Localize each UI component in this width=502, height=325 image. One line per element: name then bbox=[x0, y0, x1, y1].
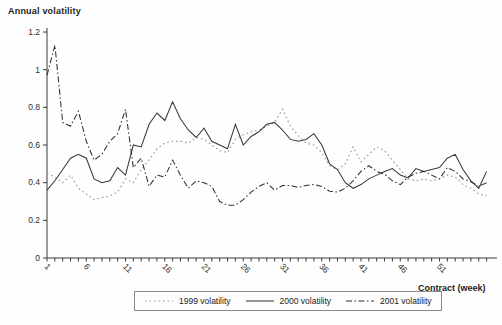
x-tick-label: 51 bbox=[435, 261, 449, 275]
volatility-line-chart: 00.20.40.60.811.216111621263136414651 bbox=[0, 0, 502, 325]
y-tick-label: 1 bbox=[35, 65, 40, 75]
chart-legend: 1999 volatility 2000 volatility 2001 vol… bbox=[134, 291, 442, 311]
x-tick-label: 6 bbox=[82, 261, 93, 272]
y-tick-label: 0.2 bbox=[28, 215, 40, 225]
y-tick-label: 0.4 bbox=[28, 177, 40, 187]
y-tick-label: 0.8 bbox=[28, 102, 40, 112]
legend-item-2001: 2001 volatility bbox=[345, 296, 432, 306]
series-line-2000 bbox=[47, 102, 487, 191]
y-tick-label: 1.2 bbox=[28, 27, 40, 37]
series-line-1999 bbox=[47, 109, 487, 199]
x-tick-label: 1 bbox=[43, 261, 54, 272]
axes bbox=[47, 28, 497, 258]
legend-label-2000: 2000 volatility bbox=[280, 296, 332, 306]
legend-line-sample-2001-icon bbox=[345, 297, 375, 305]
y-ticks: 00.20.40.60.811.2 bbox=[28, 27, 47, 263]
legend-item-1999: 1999 volatility bbox=[144, 296, 231, 306]
x-tick-label: 31 bbox=[278, 261, 292, 275]
series-line-2001 bbox=[47, 45, 487, 205]
x-tick-label: 11 bbox=[121, 261, 135, 275]
x-ticks: 16111621263136414651 bbox=[43, 258, 487, 275]
x-tick-label: 26 bbox=[239, 261, 253, 275]
y-tick-label: 0 bbox=[35, 253, 40, 263]
legend-label-2001: 2001 volatility bbox=[380, 296, 432, 306]
legend-line-sample-2000-icon bbox=[245, 297, 275, 305]
x-tick-label: 41 bbox=[357, 261, 371, 275]
x-tick-label: 36 bbox=[317, 261, 331, 275]
legend-label-1999: 1999 volatility bbox=[179, 296, 231, 306]
x-tick-label: 46 bbox=[396, 261, 410, 275]
x-tick-label: 21 bbox=[200, 261, 214, 275]
x-tick-label: 16 bbox=[160, 261, 174, 275]
y-tick-label: 0.6 bbox=[28, 140, 40, 150]
legend-line-sample-1999-icon bbox=[144, 297, 174, 305]
volatility-figure: 00.20.40.60.811.216111621263136414651 An… bbox=[0, 0, 502, 325]
chart-title: Annual volatility bbox=[8, 6, 81, 16]
legend-item-2000: 2000 volatility bbox=[245, 296, 332, 306]
